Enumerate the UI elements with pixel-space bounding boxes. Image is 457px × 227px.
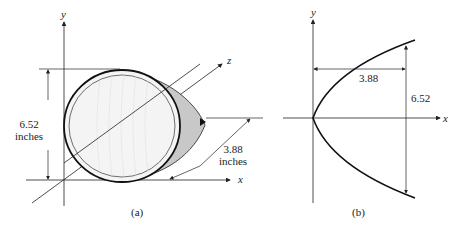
b-x-axis-label: x xyxy=(443,112,448,124)
diagram-canvas xyxy=(0,0,457,227)
a-y-axis-label: y xyxy=(61,8,66,20)
figure-a xyxy=(26,22,263,206)
dish-rim-outer xyxy=(64,70,180,182)
a-height-label: 6.52 inches xyxy=(12,118,46,142)
parabola-curve xyxy=(313,40,415,198)
b-width-label: 3.88 xyxy=(359,72,378,84)
a-z-axis-label: z xyxy=(227,54,231,66)
b-height-label: 6.52 xyxy=(411,92,430,104)
caption-a: (a) xyxy=(131,206,143,218)
a-x-axis-label: x xyxy=(238,173,243,185)
b-y-axis-label: y xyxy=(311,6,316,18)
caption-b: (b) xyxy=(352,206,365,218)
figure-b xyxy=(283,20,440,203)
a-depth-label: 3.88 inches xyxy=(216,143,250,167)
